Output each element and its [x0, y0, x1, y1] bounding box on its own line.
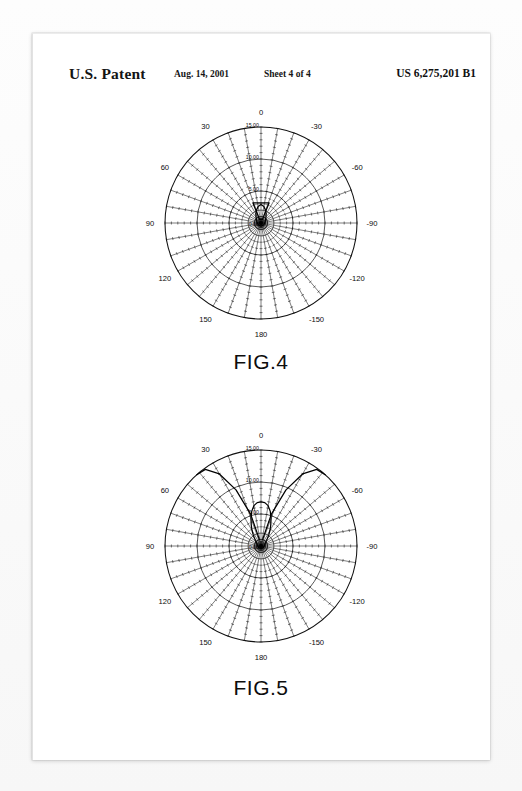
figure-5-plot: 0306090120150180-150-120-90-60-300.005.0…: [32, 418, 490, 670]
polar-angle-label: 120: [159, 597, 172, 606]
polar-radial-label: 15.00: [246, 122, 259, 128]
polar-angle-label: -90: [367, 219, 378, 228]
patent-page-viewport: U.S. Patent Aug. 14, 2001 Sheet 4 of 4 U…: [0, 0, 522, 791]
patent-header: U.S. Patent Aug. 14, 2001 Sheet 4 of 4 U…: [32, 65, 490, 87]
polar-origin-cluster: [256, 218, 265, 227]
polar-angle-label: 150: [199, 638, 212, 647]
figure-4-plot: 0306090120150180-150-120-90-60-300.005.0…: [32, 95, 490, 347]
polar-chart-fig4: 0306090120150180-150-120-90-60-300.005.0…: [136, 95, 386, 347]
polar-angle-label: 60: [161, 486, 169, 495]
patent-issue-date: Aug. 14, 2001: [174, 69, 229, 79]
polar-radial-label: 10.00: [246, 477, 259, 483]
polar-angle-label: 0: [259, 431, 263, 440]
patent-office-title: U.S. Patent: [69, 65, 146, 83]
series-right-side-lobe: [263, 469, 326, 539]
polar-angle-label: 120: [159, 274, 172, 283]
polar-angle-label: -150: [309, 315, 324, 324]
polar-chart-fig5: 0306090120150180-150-120-90-60-300.005.0…: [136, 418, 386, 670]
polar-angle-label: 30: [201, 122, 209, 131]
patent-number: US 6,275,201 B1: [396, 67, 476, 79]
polar-radial-label: 15.00: [246, 445, 259, 451]
polar-angle-label: -150: [309, 638, 324, 647]
polar-angle-label: 90: [146, 542, 154, 551]
polar-angle-label: 150: [199, 315, 212, 324]
figure-5: 0306090120150180-150-120-90-60-300.005.0…: [32, 418, 490, 718]
polar-angle-label: -60: [352, 163, 363, 172]
polar-angle-label: 180: [255, 330, 268, 339]
polar-angle-label: 30: [201, 445, 209, 454]
polar-radial-label: 10.00: [246, 154, 259, 160]
polar-angle-label: -120: [350, 597, 365, 606]
polar-angle-label: -30: [311, 445, 322, 454]
polar-angle-label: -60: [352, 486, 363, 495]
figure-5-caption: FIG.5: [32, 676, 490, 700]
polar-angle-label: 60: [161, 163, 169, 172]
polar-angle-label: -120: [350, 274, 365, 283]
polar-angle-label: 180: [255, 653, 268, 662]
polar-angle-label: 0: [259, 108, 263, 117]
figure-4: 0306090120150180-150-120-90-60-300.005.0…: [32, 95, 490, 395]
polar-angle-label: -90: [367, 542, 378, 551]
polar-radial-label: 5.00: [249, 186, 259, 192]
polar-origin-cluster: [256, 541, 265, 550]
polar-angle-label: -30: [311, 122, 322, 131]
figure-4-caption: FIG.4: [32, 350, 490, 374]
polar-angle-label: 90: [146, 219, 154, 228]
patent-sheet: U.S. Patent Aug. 14, 2001 Sheet 4 of 4 U…: [32, 33, 490, 760]
patent-sheet-number: Sheet 4 of 4: [264, 69, 311, 79]
